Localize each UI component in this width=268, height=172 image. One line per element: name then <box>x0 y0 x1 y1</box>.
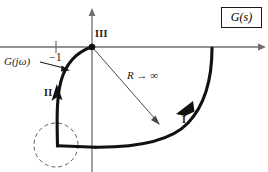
label-gjw: G(jω) <box>4 56 30 67</box>
vertical-axis-arrowhead <box>89 8 96 16</box>
label-radius: R → ∞ <box>127 70 158 81</box>
origin-point <box>89 44 96 51</box>
horizontal-axis-arrowhead <box>258 44 266 51</box>
transfer-function-title-box: G(s) <box>221 7 262 28</box>
title-box-label: G(s) <box>231 10 252 25</box>
label-segment-three: III <box>95 29 108 39</box>
label-segment-one: I <box>182 115 186 125</box>
nyquist-plot-figure: −1 G(jω) III II I R → ∞ G(s) <box>0 0 268 172</box>
gjw-locus-curve <box>57 47 91 146</box>
axis-group <box>0 8 266 172</box>
bottom-horizontal-link <box>58 146 97 147</box>
large-semicircle-arc <box>96 48 213 147</box>
label-minus-one: −1 <box>49 51 62 63</box>
radius-arrow <box>93 48 160 125</box>
label-segment-two: II <box>44 88 52 98</box>
